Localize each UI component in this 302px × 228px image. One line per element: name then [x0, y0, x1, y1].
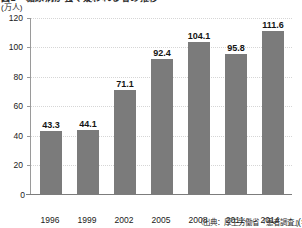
x-tick-label-2005: 2005 [145, 215, 177, 225]
bar-value-2011: 95.8 [227, 43, 245, 53]
bar-value-2014: 111.6 [262, 20, 284, 30]
bar-group-1996: 43.3 [35, 16, 67, 194]
bar-2002[interactable] [114, 90, 136, 194]
bar-1996[interactable] [40, 131, 62, 194]
bar-group-2014: 111.6 [257, 16, 289, 194]
source-note: （出典：厚生労働省「患者調査」) [196, 216, 300, 227]
x-axis-line [26, 194, 292, 195]
y-tick-label-40: 40 [14, 131, 23, 141]
bar-2005[interactable] [151, 59, 173, 194]
page-title: 図1 糖尿病が強く疑われる者の推移 [0, 0, 302, 3]
bar-group-2005: 92.4 [146, 16, 178, 194]
y-tick-label-120: 120 [9, 13, 23, 23]
chart-figure: 図1 糖尿病が強く疑われる者の推移 (万人) 120 100 80 60 40 … [0, 0, 302, 228]
chart-title-strip: 図1 糖尿病が強く疑われる者の推移 [0, 0, 302, 3]
bar-value-1996: 43.3 [42, 120, 60, 130]
y-tick-label-100: 100 [9, 42, 23, 52]
bar-value-2008: 104.1 [188, 31, 211, 41]
bar-group-1999: 44.1 [72, 16, 104, 194]
y-tick-label-0: 0 [20, 190, 25, 200]
y-tick-label-60: 60 [14, 101, 23, 111]
y-tick-label-80: 80 [14, 72, 23, 82]
bar-group-2008: 104.1 [183, 16, 215, 194]
y-axis-unit-label: (万人) [1, 3, 22, 12]
bar-1999[interactable] [77, 130, 99, 194]
bar-group-2002: 71.1 [109, 16, 141, 194]
x-tick-label-1999: 1999 [71, 215, 103, 225]
bar-value-1999: 44.1 [79, 119, 97, 129]
y-tick-label-20: 20 [14, 160, 23, 170]
bar-series: 43.3 44.1 71.1 92.4 104.1 95.8 [31, 16, 292, 194]
x-tick-label-2002: 2002 [108, 215, 140, 225]
bar-2011[interactable] [225, 54, 247, 194]
bar-2014[interactable] [262, 31, 284, 194]
x-tick-label-1996: 1996 [34, 215, 66, 225]
bar-2008[interactable] [188, 42, 210, 194]
bar-value-2005: 92.4 [153, 48, 171, 58]
bar-group-2011: 95.8 [220, 16, 252, 194]
bar-value-2002: 71.1 [116, 79, 134, 89]
plot-area: 120 100 80 60 40 20 0 43.3 [30, 16, 292, 195]
